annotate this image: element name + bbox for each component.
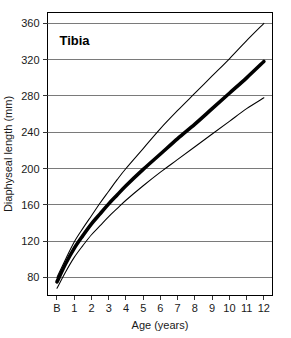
x-tick-label: 2 (88, 302, 94, 314)
x-tick-label: 7 (175, 302, 181, 314)
x-tick-label: 11 (241, 302, 252, 314)
y-tick-label: 240 (21, 126, 39, 138)
y-tick-label: 120 (21, 235, 39, 247)
y-tick-label: 360 (21, 17, 39, 29)
y-tick-label: 160 (21, 199, 39, 211)
y-tick-label: 280 (21, 90, 39, 102)
x-tick-label: 9 (209, 302, 215, 314)
x-axis-title: Age (years) (132, 319, 189, 331)
x-tick-label: 6 (157, 302, 163, 314)
x-tick-label: 4 (123, 302, 129, 314)
x-tick-label: 8 (192, 302, 198, 314)
x-tick-label: 10 (223, 302, 235, 314)
x-tick-label: 5 (140, 302, 146, 314)
y-axis-tick-labels: 80120160200240280320360 (21, 17, 39, 283)
chart-canvas: 80120160200240280320360 B123456789101112… (0, 0, 291, 338)
x-tick-label: 12 (258, 302, 270, 314)
tibia-growth-chart: 80120160200240280320360 B123456789101112… (0, 0, 291, 338)
data-curves (57, 23, 264, 288)
x-tick-label: 3 (106, 302, 112, 314)
y-tick-label: 200 (21, 163, 39, 175)
y-tick-label: 320 (21, 54, 39, 66)
y-tick-label: 80 (27, 271, 39, 283)
curve-percentile-line (57, 98, 264, 288)
x-tick-label: B (53, 302, 60, 314)
y-axis-title: Diaphyseal length (mm) (2, 96, 14, 212)
page-title: Tibia (60, 33, 91, 48)
x-tick-label: 1 (71, 302, 77, 314)
x-axis-tick-labels: B123456789101112 (53, 302, 270, 314)
